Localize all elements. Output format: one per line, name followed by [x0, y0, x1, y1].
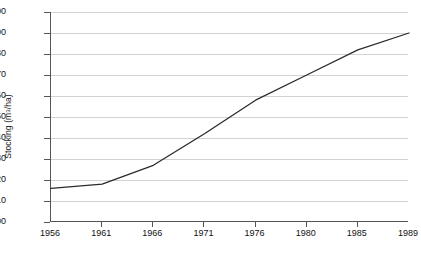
y-axis-tick-label: 170	[0, 70, 6, 79]
y-axis-tick-label: 120	[0, 175, 6, 184]
x-axis-tick-label: 1966	[132, 229, 172, 238]
y-axis-tick-label: 150	[0, 112, 6, 121]
x-axis-tick-label: 1985	[337, 229, 377, 238]
x-axis-tick-label: 1961	[81, 229, 121, 238]
line-chart: Stocking (m3/ha) 10011012013014015016017…	[0, 0, 421, 253]
y-axis-tick-label: 180	[0, 49, 6, 58]
x-axis-tick-mark	[255, 222, 256, 227]
x-axis-tick-mark	[357, 222, 358, 227]
y-axis-tick-label: 100	[0, 217, 6, 226]
x-axis-tick-label: 1989	[388, 229, 421, 238]
x-axis-tick-mark	[203, 222, 204, 227]
x-axis-tick-label: 1980	[286, 229, 326, 238]
x-axis-tick-label: 1956	[30, 229, 70, 238]
x-axis-tick-mark	[152, 222, 153, 227]
y-axis-tick-mark	[44, 222, 50, 223]
y-axis-tick-label: 110	[0, 196, 6, 205]
y-axis-tick-label: 160	[0, 91, 6, 100]
y-axis-tick-label: 200	[0, 7, 6, 16]
y-axis-tick-label: 190	[0, 28, 6, 37]
x-axis-tick-mark	[101, 222, 102, 227]
x-axis-tick-mark	[306, 222, 307, 227]
y-axis-tick-label: 130	[0, 154, 6, 163]
x-axis-tick-label: 1976	[235, 229, 275, 238]
series-line-stocking	[51, 33, 409, 188]
series-layer	[51, 12, 409, 222]
plot-area	[50, 12, 408, 222]
y-axis-tick-label: 140	[0, 133, 6, 142]
x-axis-tick-label: 1971	[183, 229, 223, 238]
